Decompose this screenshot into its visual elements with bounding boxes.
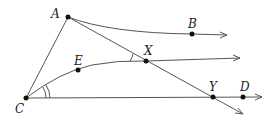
curve-cex — [26, 58, 240, 98]
arrow-axy-icon — [235, 108, 243, 114]
line-axy — [68, 17, 243, 114]
point-a — [66, 15, 71, 20]
label-a: A — [50, 7, 60, 21]
angle-mark-c-inner — [43, 87, 46, 98]
point-y — [211, 95, 216, 100]
line-cd — [26, 97, 262, 98]
angle-mark-c-outer — [46, 85, 50, 98]
point-b — [190, 32, 195, 37]
curve-ab — [68, 17, 227, 35]
label-e: E — [73, 54, 83, 68]
point-c — [24, 96, 29, 101]
label-x: X — [143, 44, 153, 58]
point-e — [76, 68, 81, 73]
angle-mark-x — [130, 54, 133, 61]
label-b: B — [187, 17, 197, 31]
point-d — [241, 95, 246, 100]
label-c: C — [15, 102, 24, 116]
label-d: D — [239, 80, 250, 94]
geometry-diagram: A B C E X Y D — [0, 0, 277, 124]
point-x — [144, 59, 149, 64]
label-y: Y — [209, 80, 218, 94]
